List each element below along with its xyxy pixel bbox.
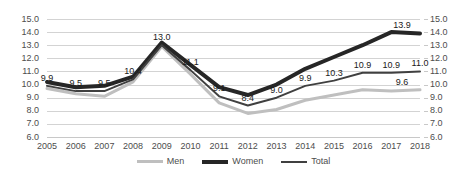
y-axis-tick-label-right: 14.0 <box>424 28 467 37</box>
x-axis-tick-label: 2013 <box>267 142 287 151</box>
y-axis-tick-mark <box>424 137 428 138</box>
legend-item-total[interactable]: Total <box>281 157 330 166</box>
legend-label: Total <box>311 157 330 166</box>
y-axis-tick-label-right: 12.0 <box>424 54 467 63</box>
x-axis-tick-label: 2011 <box>209 142 228 151</box>
legend-swatch-total-icon <box>281 161 307 163</box>
y-axis-tick-label-right: 13.0 <box>424 41 467 50</box>
x-axis-tick-label: 2007 <box>94 142 114 151</box>
legend-item-men[interactable]: Men <box>137 157 185 166</box>
x-axis-tick-label: 2005 <box>37 142 57 151</box>
series-layer <box>47 19 420 137</box>
legend-label: Men <box>167 157 185 166</box>
series-line-women <box>47 32 420 95</box>
x-axis-tick-label: 2016 <box>353 142 373 151</box>
chart-legend: MenWomenTotal <box>0 157 467 166</box>
y-axis-tick-label-left: 15.0 <box>0 15 43 24</box>
x-axis: 2005200620072008200920102011201220132014… <box>47 142 420 154</box>
y-axis-tick-mark <box>424 71 428 72</box>
y-axis-tick-mark <box>424 85 428 86</box>
x-axis-tick-label: 2009 <box>152 142 172 151</box>
x-axis-tick-label: 2014 <box>295 142 315 151</box>
y-axis-tick-mark <box>424 58 428 59</box>
x-axis-tick-label: 2018 <box>410 142 430 151</box>
y-axis-tick-mark <box>424 124 428 125</box>
x-axis-tick-label: 2006 <box>66 142 86 151</box>
y-axis-tick-label-left: 9.0 <box>0 93 43 102</box>
y-axis-tick-label-right: 7.0 <box>424 119 467 128</box>
y-axis-tick-label-left: 7.0 <box>0 119 43 128</box>
y-axis-tick-mark <box>424 45 428 46</box>
y-axis-tick-label-right: 15.0 <box>424 15 467 24</box>
y-axis-tick-label-left: 11.0 <box>0 67 43 76</box>
y-axis-tick-label-left: 14.0 <box>0 28 43 37</box>
y-axis-tick-label-left: 13.0 <box>0 41 43 50</box>
series-line-men <box>47 47 420 114</box>
x-axis-tick-label: 2010 <box>180 142 200 151</box>
y-axis-tick-mark <box>424 19 428 20</box>
y-axis-tick-label-right: 6.0 <box>424 133 467 142</box>
y-axis-tick-label-right: 11.0 <box>424 67 467 76</box>
legend-swatch-men-icon <box>137 160 163 163</box>
y-axis-tick-label-right: 10.0 <box>424 80 467 89</box>
gridline <box>47 137 420 138</box>
x-axis-tick-label: 2012 <box>238 142 258 151</box>
y-axis-tick-mark <box>424 111 428 112</box>
y-axis-tick-label-left: 10.0 <box>0 80 43 89</box>
plot-area <box>47 19 420 137</box>
legend-swatch-women-icon <box>202 160 228 164</box>
x-axis-tick-label: 2015 <box>324 142 344 151</box>
line-chart: 15.014.013.012.011.010.09.08.07.06.0 15.… <box>0 0 467 182</box>
y-axis-tick-label-left: 12.0 <box>0 54 43 63</box>
x-axis-tick-label: 2017 <box>381 142 401 151</box>
legend-item-women[interactable]: Women <box>202 157 263 166</box>
y-axis-tick-label-right: 8.0 <box>424 106 467 115</box>
y-axis-tick-label-right: 9.0 <box>424 93 467 102</box>
x-axis-tick-label: 2008 <box>123 142 143 151</box>
y-axis-tick-label-left: 8.0 <box>0 106 43 115</box>
y-axis-tick-mark <box>424 98 428 99</box>
legend-label: Women <box>232 157 263 166</box>
y-axis-tick-mark <box>424 32 428 33</box>
